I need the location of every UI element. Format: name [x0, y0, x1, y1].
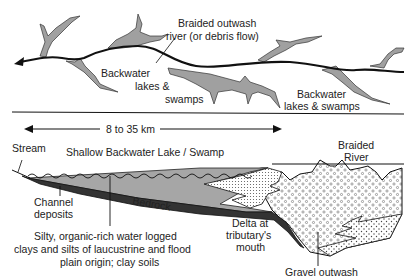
- scale-arrow-right-icon: [273, 125, 282, 133]
- channel-label-1: Channel: [34, 196, 73, 208]
- lake-label: Shallow Backwater Lake / Swamp: [66, 146, 224, 158]
- braided-river-label-1: Braided: [338, 139, 374, 151]
- gravel-label: Gravel outwash: [285, 266, 358, 278]
- silty-label-2: clays and silts of laucustrine and flood: [14, 243, 191, 255]
- delta-label-2: tributary's: [226, 229, 271, 241]
- cross-section: Stream Shallow Backwater Lake / Swamp Br…: [12, 139, 404, 278]
- backwater-left-line3: swamps: [165, 93, 204, 105]
- flow-arrow-icon: [14, 57, 24, 66]
- backwater-right-line2: lakes & swamps: [284, 100, 360, 112]
- stream-label: Stream: [12, 142, 46, 154]
- backwater-left-line1: Backwater: [101, 67, 151, 79]
- braided-label-line2: river (or debris flow): [166, 30, 259, 42]
- backwater-left-line2: lakes &: [135, 80, 169, 92]
- silty-label-1: Silty, organic-rich water logged: [34, 230, 177, 242]
- scale-arrow-left-icon: [24, 125, 33, 133]
- scale-bar: 8 to 35 km: [24, 123, 282, 135]
- backwater-diagram: Braided outwash river (or debris flow) B…: [0, 0, 418, 280]
- delta-label-3: mouth: [236, 241, 265, 253]
- stream-leader: [18, 160, 22, 172]
- scale-label: 8 to 35 km: [106, 123, 155, 135]
- braided-label-line1: Braided outwash: [178, 17, 256, 29]
- silty-label-3: plain origin; clay soils: [60, 256, 159, 268]
- channel-label-2: deposits: [34, 208, 73, 220]
- stream-bank: [12, 170, 30, 178]
- backwater-right-line1: Backwater: [297, 88, 347, 100]
- delta-label-1: Delta at: [232, 217, 268, 229]
- section-divider: [12, 112, 404, 114]
- braided-river-label-2: River: [344, 151, 369, 163]
- plan-view: Braided outwash river (or debris flow) B…: [14, 14, 404, 112]
